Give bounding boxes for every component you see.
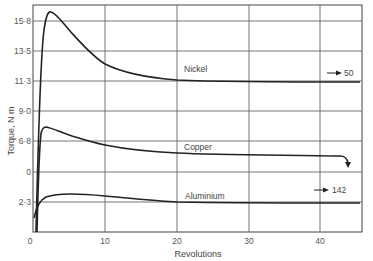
y-tick-labels: 15·8 13·5 11·3 9·0 6·8 0 2·3 xyxy=(14,16,31,207)
x-axis-title: Revolutions xyxy=(174,249,222,259)
aluminium-arrow-annotation: 142 xyxy=(314,185,346,195)
nickel-arrow-annotation: 50 xyxy=(327,68,354,78)
torque-chart: 15·8 13·5 11·3 9·0 6·8 0 2·3 0 10 20 30 … xyxy=(0,0,373,261)
copper-arrowhead xyxy=(345,162,351,168)
x-tick-label: 40 xyxy=(315,236,325,246)
y-tick-label: 6·8 xyxy=(19,136,32,146)
y-tick-label: 0 xyxy=(26,167,31,177)
x-tick-label: 30 xyxy=(244,236,254,246)
y-axis-title: Torque, N m xyxy=(6,106,16,155)
copper-label: Copper xyxy=(184,142,212,152)
nickel-arrow-value: 50 xyxy=(344,68,354,78)
aluminium-arrow-value: 142 xyxy=(332,185,346,195)
y-tick-label: 15·8 xyxy=(14,16,31,26)
x-tick-labels: 0 10 20 30 40 xyxy=(28,236,325,246)
right-arrow-icon xyxy=(323,188,329,193)
x-tick-label: 20 xyxy=(172,236,182,246)
nickel-label: Nickel xyxy=(184,64,207,74)
y-tick-label: 9·0 xyxy=(19,106,32,116)
aluminium-label: Aluminium xyxy=(185,191,225,201)
y-tick-label: 13·5 xyxy=(14,46,31,56)
x-tick-label: 0 xyxy=(28,236,33,246)
right-arrow-icon xyxy=(336,71,342,76)
h-gridlines xyxy=(33,21,362,202)
y-tick-label: 2·3 xyxy=(19,197,32,207)
x-tick-label: 10 xyxy=(100,236,110,246)
y-tick-label: 11·3 xyxy=(15,76,32,86)
